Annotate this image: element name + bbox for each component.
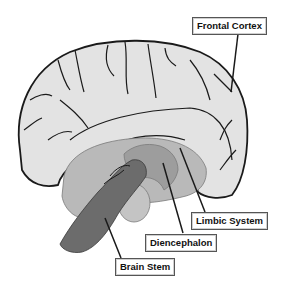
brain-diagram [0, 0, 286, 295]
limbic-system-label: Limbic System [191, 212, 268, 230]
diencephalon-label: Diencephalon [145, 234, 217, 252]
frontal-cortex-label: Frontal Cortex [192, 17, 267, 35]
brain-stem-label: Brain Stem [115, 258, 175, 276]
